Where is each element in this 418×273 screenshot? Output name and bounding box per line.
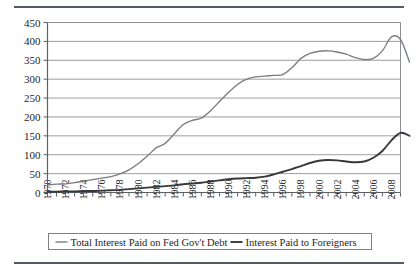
x-axis-tick-label: 2008: [386, 180, 397, 200]
chart-legend: Total Interest Paid on Fed Gov't DebtInt…: [49, 234, 372, 250]
y-axis-tick-label: 0: [35, 187, 41, 199]
x-axis-tick-label: 2006: [368, 180, 379, 200]
legend-label-total-interest: Total Interest Paid on Fed Gov't Debt: [71, 237, 228, 248]
x-axis-tick-label: 2000: [314, 180, 325, 200]
chart-figure: 050100150200250300350400450 197019721974…: [0, 0, 418, 273]
x-axis-tick-label: 1990: [223, 180, 234, 200]
gridlines: [48, 23, 401, 174]
x-axis-tick-label: 1984: [169, 180, 180, 200]
y-axis-tick-label: 300: [24, 73, 41, 85]
legend-label-foreign-interest: Interest Paid to Foreigners: [246, 237, 357, 248]
data-series-group: [48, 36, 410, 192]
x-axis-tick-label: 1996: [277, 180, 288, 200]
y-axis-tick-label: 350: [24, 54, 41, 66]
x-axis-tick-label: 1992: [241, 180, 252, 200]
x-axis-tick-label: 1972: [60, 180, 71, 200]
y-axis-tick-label: 450: [24, 17, 41, 29]
x-axis-tick-label: 1994: [259, 180, 270, 200]
x-axis-tick-label: 2004: [350, 180, 361, 200]
line-chart: 050100150200250300350400450 197019721974…: [0, 0, 418, 273]
x-axis-tick-label: 1998: [295, 180, 306, 200]
x-axis-tick-label: 1982: [151, 180, 162, 200]
y-axis-tick-label: 150: [24, 130, 41, 142]
plot-frame: [48, 23, 401, 193]
y-axis-tick-label: 200: [24, 111, 41, 123]
y-axis-tick-label: 250: [24, 92, 41, 104]
x-axis-tick-label: 2002: [332, 180, 343, 200]
y-axis-tick-label: 100: [24, 149, 41, 161]
y-axis-tick-label: 400: [24, 35, 41, 47]
y-axis-tick-labels: 050100150200250300350400450: [24, 17, 41, 199]
y-axis-tick-label: 50: [30, 168, 42, 180]
